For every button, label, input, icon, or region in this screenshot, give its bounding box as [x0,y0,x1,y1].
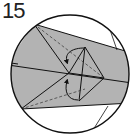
origami-diagram [0,0,136,135]
paper-shape [8,24,132,109]
